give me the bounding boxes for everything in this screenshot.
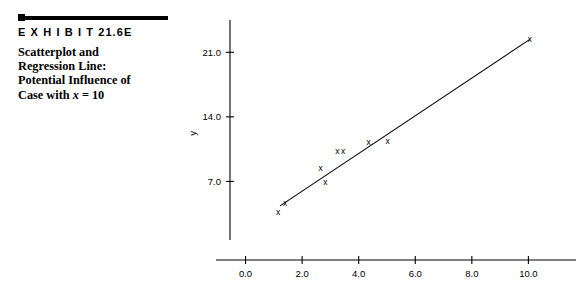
- scatterplot-chart: 0.02.04.06.08.010.0 7.014.021.0 xxxxxxxx…: [168, 8, 580, 286]
- data-point-marker: x: [276, 207, 281, 217]
- data-point-marker: x: [283, 198, 288, 208]
- x-tick-label: 4.0: [352, 268, 365, 279]
- exhibit-figure: E X H I B I T 21.6E Scatterplot and Regr…: [0, 0, 588, 291]
- x-tick-label: 0.0: [239, 268, 252, 279]
- chart-axes: [216, 20, 576, 260]
- x-tick-label: 8.0: [465, 268, 478, 279]
- x-tick-label: 6.0: [409, 268, 422, 279]
- data-point-marker: x: [323, 177, 328, 187]
- y-axis-ticks: 7.014.021.0: [203, 47, 235, 187]
- data-point-marker: x: [335, 146, 340, 156]
- x-tick-label: 10.0: [519, 268, 538, 279]
- data-point-marker: x: [528, 34, 533, 44]
- y-axis-title: y: [187, 131, 198, 136]
- data-point-marker: x: [366, 137, 371, 147]
- caption-line-4-pre: Case with: [18, 88, 73, 102]
- data-point-marker: x: [385, 136, 390, 146]
- exhibit-description: Scatterplot and Regression Line: Potenti…: [18, 45, 168, 102]
- exhibit-rule: [18, 12, 168, 22]
- caption-line-2: Regression Line:: [18, 59, 106, 73]
- square-bullet-icon: [18, 14, 25, 21]
- data-point-marker: x: [341, 146, 346, 156]
- axis-titles: xy: [187, 131, 402, 286]
- y-tick-label: 14.0: [203, 111, 222, 122]
- x-tick-label: 2.0: [296, 268, 309, 279]
- y-tick-label: 7.0: [208, 176, 221, 187]
- data-point-marker: x: [318, 163, 323, 173]
- exhibit-caption-block: E X H I B I T 21.6E Scatterplot and Regr…: [18, 12, 168, 102]
- caption-line-1: Scatterplot and: [18, 45, 99, 59]
- y-tick-label: 21.0: [203, 47, 222, 58]
- data-points: xxxxxxxxx: [276, 34, 533, 216]
- x-axis-title: x: [397, 282, 402, 286]
- chart-canvas: 0.02.04.06.08.010.0 7.014.021.0 xxxxxxxx…: [168, 8, 580, 286]
- horizontal-rule: [25, 16, 168, 20]
- regression-line-path: [280, 39, 530, 206]
- caption-line-3: Potential Influence of: [18, 73, 131, 87]
- caption-line-4-post: = 10: [79, 88, 104, 102]
- exhibit-label: E X H I B I T 21.6E: [18, 26, 168, 38]
- regression-line: [280, 39, 530, 206]
